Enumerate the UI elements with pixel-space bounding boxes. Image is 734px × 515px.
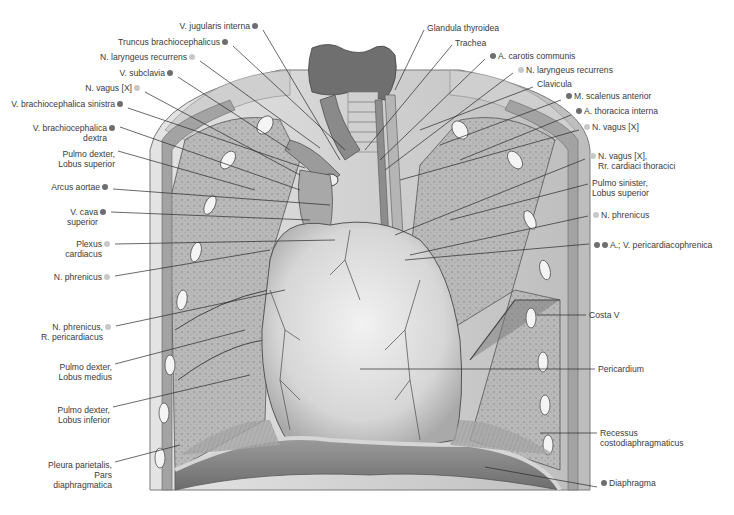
nerve-dot-icon [189,54,195,60]
anatomy-figure: V. jugularis interna Truncus brachioceph… [0,0,734,515]
label-pulmo-dexter-lobus-medius: Pulmo dexter, Lobus medius [58,362,112,382]
label-n-vagus-left: N. vagus [X] [85,83,142,93]
label-n-phrenicus-right: N. phrenicus [591,210,649,220]
nerve-dot-icon [593,212,599,218]
label-v-subclavia: V. subclavia [119,68,175,78]
nerve-dot-icon [104,241,110,247]
label-m-scalenus-anterior: M. scalenus anterior [564,91,651,101]
label-n-phrenicus-r-pericardiacus: N. phrenicus, R. pericardiacus [41,322,113,342]
label-clavicula: Clavicula [537,79,572,89]
label-v-brachiocephalica-sinistra: V. brachiocephalica sinistra [11,99,125,109]
pericardium [262,222,462,449]
vein-dot-icon [252,23,258,29]
label-a-v-pericardiacophrenica: A.; V. pericardiacophrenica [592,240,712,250]
label-recessus-costodiaphragmaticus: Recessus costodiaphragmaticus [600,428,684,448]
vein-dot-icon [167,70,173,76]
nerve-dot-icon [134,85,140,91]
label-n-laryngeus-recurrens-left: N. laryngeus recurrens [100,52,197,62]
label-v-cava-superior: V. cava superior [67,207,108,227]
nerve-dot-icon [590,153,596,159]
label-n-phrenicus-left: N. phrenicus [54,272,112,282]
label-n-laryngeus-recurrens-right: N. laryngeus recurrens [516,65,613,75]
vein-dot-icon [117,101,123,107]
label-v-brachiocephalica-dextra: V. brachiocephalica dextra [33,123,117,143]
muscle-dot-icon [601,480,607,486]
label-n-vagus-right: N. vagus [X] [582,122,639,132]
nerve-dot-icon [104,274,110,280]
label-pulmo-sinister-lobus-superior: Pulmo sinister, Lobus superior [592,178,649,198]
vein-dot-icon [100,209,106,215]
label-pleura-parietalis: Pleura parietalis, Pars diaphragmatica [48,460,112,490]
artery-dot-icon [102,184,108,190]
label-costa-v: Costa V [589,310,620,320]
artery-dot-icon [576,108,582,114]
label-plexus-cardiacus: Plexus cardiacus [65,239,112,259]
label-truncus-brachiocephalicus: Truncus brachiocephalicus [118,37,230,47]
vein-dot-icon [602,242,608,248]
muscle-dot-icon [566,93,572,99]
label-pulmo-dexter-lobus-superior: Pulmo dexter, Lobus superior [58,149,115,169]
label-n-vagus-rr-cardiaci-thoracici: N. vagus [X], Rr. cardiaci thoracici [588,151,675,171]
label-trachea: Trachea [455,38,486,48]
label-a-thoracica-interna: A. thoracica interna [574,106,658,116]
artery-dot-icon [490,53,496,59]
label-pulmo-dexter-lobus-inferior: Pulmo dexter, Lobus inferior [57,405,110,425]
vein-dot-icon [109,125,115,131]
artery-dot-icon [594,242,600,248]
nerve-dot-icon [584,124,590,130]
nerve-dot-icon [105,324,111,330]
label-diaphragma: Diaphragma [599,478,656,488]
thyroid-gland [309,44,397,100]
label-pericardium: Pericardium [598,364,644,374]
label-a-carotis-communis: A. carotis communis [488,51,575,61]
nerve-dot-icon [518,67,524,73]
label-glandula-thyroidea: Glandula thyroidea [427,23,499,33]
artery-dot-icon [222,39,228,45]
label-arcus-aortae: Arcus aortae [51,182,110,192]
label-v-jugularis-interna: V. jugularis interna [180,21,260,31]
